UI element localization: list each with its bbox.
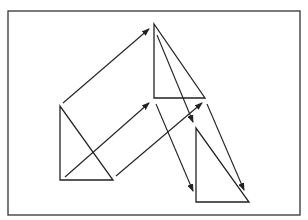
arrow-apex-1-icon [63, 29, 149, 103]
triangles-group [60, 24, 249, 202]
arrow-apex-2-icon [157, 35, 193, 122]
triangle-first-image [154, 24, 205, 98]
arrow-bottom-left-2-icon [156, 104, 193, 191]
arrow-bottom-right-2-icon [207, 104, 244, 190]
diagram-canvas [0, 0, 308, 220]
translation-diagram [0, 0, 308, 220]
arrow-bottom-left-1-icon [65, 103, 149, 177]
triangle-original [60, 106, 113, 180]
